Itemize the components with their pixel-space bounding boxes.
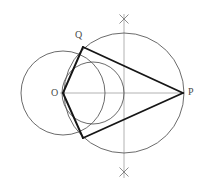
tangent-lines-group	[63, 47, 183, 138]
geometry-canvas	[0, 0, 206, 186]
radius-OQ-lower	[63, 93, 83, 138]
geometry-figure: O Q P	[0, 0, 206, 186]
point-label-q: Q	[75, 30, 82, 40]
point-label-p: P	[188, 87, 194, 97]
radius-OQ	[63, 47, 83, 93]
point-label-o: O	[51, 88, 58, 98]
